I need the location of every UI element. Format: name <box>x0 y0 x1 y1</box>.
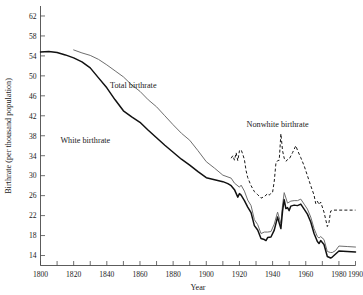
y-tick-label: 26 <box>29 191 37 200</box>
y-tick-label: 50 <box>29 72 37 81</box>
annotation-total-birthrate: Total birthrate <box>110 81 157 90</box>
y-tick-label: 58 <box>29 32 37 41</box>
annotation-white-birthrate: White birthrate <box>60 136 110 145</box>
x-tick-label: 1940 <box>265 270 280 279</box>
x-tick-label: 1820 <box>66 270 81 279</box>
y-tick-label: 22 <box>29 211 37 220</box>
x-tick-label: 1960 <box>298 270 313 279</box>
x-tick-label: 1800 <box>33 270 48 279</box>
x-tick-label: 1990 <box>348 270 363 279</box>
x-tick-label: 1980 <box>331 270 346 279</box>
x-tick-label: 1900 <box>199 270 214 279</box>
y-tick-label: 18 <box>29 231 37 240</box>
y-tick-label: 14 <box>29 251 37 260</box>
chart-background <box>0 0 363 295</box>
x-axis-title: Year <box>190 283 205 292</box>
y-tick-label: 62 <box>29 12 37 21</box>
y-tick-label: 30 <box>29 171 37 180</box>
chart-svg: 14182226303438424650545862 Birthrate (pe… <box>0 0 363 295</box>
y-tick-label: 34 <box>29 152 37 161</box>
y-axis-title: Birthrate (per thousand population) <box>4 78 13 194</box>
y-tick-label: 46 <box>29 92 37 101</box>
x-tick-label: 1860 <box>132 270 147 279</box>
annotation-nonwhite-birthrate: Nonwhite birthrate <box>247 120 309 129</box>
y-tick-label: 42 <box>29 112 37 121</box>
x-tick-label: 1840 <box>99 270 114 279</box>
y-tick-label: 38 <box>29 132 37 141</box>
y-tick-label: 54 <box>29 52 37 61</box>
birthrate-chart: 14182226303438424650545862 Birthrate (pe… <box>0 0 363 295</box>
x-tick-label: 1880 <box>166 270 181 279</box>
x-tick-label: 1920 <box>232 270 247 279</box>
